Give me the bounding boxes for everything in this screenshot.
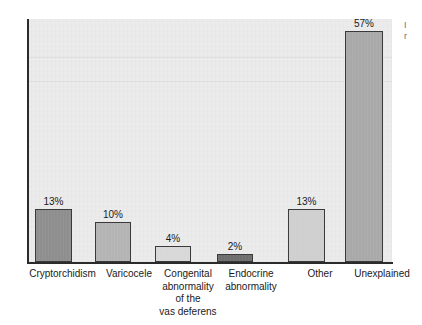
x-tick-label-line: Unexplained <box>337 268 422 281</box>
x-tick-label-line: abnormality <box>211 281 291 294</box>
bar-value-label: 57% <box>345 18 383 29</box>
clipped-margin-text-line-2: r <box>404 31 422 42</box>
y-axis-line <box>27 19 29 264</box>
x-tick-label-endocrine-abnormality: Endocrineabnormality <box>211 268 291 293</box>
plot-background-texture <box>27 19 392 262</box>
bar-fill-texture <box>156 247 190 261</box>
clipped-margin-text: I r <box>404 20 422 42</box>
bar-congenital-abnormality-vas-deferens[interactable] <box>155 246 191 262</box>
scan-artifact-band <box>27 81 392 82</box>
x-tick-label-line: vas deferens <box>148 306 228 319</box>
plot-area: 13% 10% 4% 2% 13% 57% <box>27 19 392 262</box>
bar-other[interactable] <box>288 209 325 262</box>
bar-endocrine-abnormality[interactable] <box>217 254 253 262</box>
x-axis-line <box>27 262 393 264</box>
bar-value-label: 10% <box>95 209 131 220</box>
bar-cryptorchidism[interactable] <box>35 209 72 262</box>
bar-unexplained[interactable] <box>345 31 383 262</box>
bar-fill-texture <box>96 223 130 262</box>
x-tick-label-line: of the <box>148 293 228 306</box>
bar-value-label: 4% <box>155 233 191 244</box>
bar-fill-texture <box>346 32 382 261</box>
bar-value-label: 2% <box>217 241 253 252</box>
bar-fill-texture <box>289 210 324 261</box>
bar-value-label: 13% <box>35 196 72 207</box>
chart-figure: 13% 10% 4% 2% 13% 57% Cryptorchidism Var… <box>0 0 422 325</box>
scan-artifact-band <box>27 57 392 58</box>
x-tick-label-unexplained: Unexplained <box>337 268 422 281</box>
clipped-margin-text-line-1: I <box>404 20 422 31</box>
bar-varicocele[interactable] <box>95 222 131 263</box>
x-tick-label-line: Endocrine <box>211 268 291 281</box>
bar-fill-texture <box>36 210 71 261</box>
bar-fill-texture <box>218 255 252 261</box>
bar-value-label: 13% <box>288 196 325 207</box>
